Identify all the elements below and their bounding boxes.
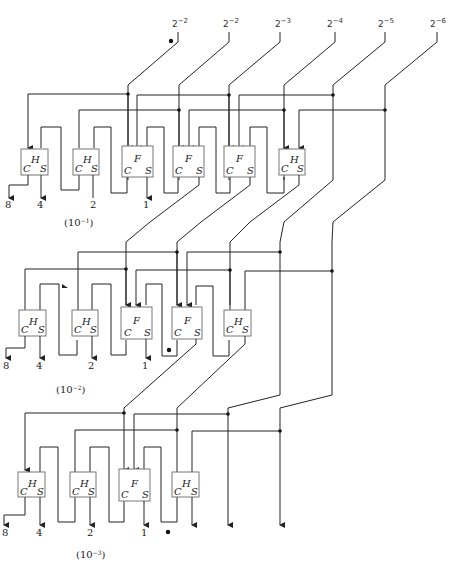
- svg-text:F: F: [133, 153, 142, 164]
- svg-text:2−3: 2−3: [275, 17, 291, 29]
- svg-text:F: F: [235, 153, 244, 164]
- svg-text:C: C: [124, 165, 132, 176]
- svg-text:1: 1: [143, 199, 149, 210]
- full-adder-block: FCS: [121, 307, 152, 339]
- half-adder-block: HCS: [19, 310, 46, 336]
- half-adder-block: HCS: [73, 149, 99, 175]
- full-adder-block: FCS: [122, 146, 153, 177]
- svg-text:S: S: [38, 324, 45, 335]
- svg-text:S: S: [90, 324, 97, 335]
- svg-text:S: S: [145, 165, 152, 176]
- svg-text:C: C: [174, 486, 182, 497]
- svg-text:4: 4: [36, 360, 42, 371]
- svg-text:8: 8: [2, 527, 8, 538]
- dot-marker: [169, 39, 173, 43]
- stage2-blocks: HCS HCS FCS FCS HCS: [19, 307, 251, 339]
- svg-text:C: C: [23, 163, 31, 174]
- stage1-outputs: [9, 175, 385, 222]
- svg-text:1: 1: [142, 360, 148, 371]
- svg-text:2−4: 2−4: [327, 17, 344, 29]
- svg-text:S: S: [247, 165, 254, 176]
- svg-text:H: H: [28, 316, 38, 327]
- svg-text:4: 4: [36, 527, 42, 538]
- full-adder-block: FCS: [172, 307, 202, 339]
- stage3-output-labels: 8 4 2 1 (10−3): [2, 527, 147, 560]
- half-adder-block: HCS: [21, 149, 48, 175]
- full-adder-block: FCS: [224, 146, 255, 177]
- svg-text:S: S: [194, 327, 201, 338]
- svg-text:S: S: [40, 163, 47, 174]
- half-adder-block: HCS: [70, 472, 96, 497]
- svg-text:2−2: 2−2: [172, 17, 188, 29]
- svg-text:2−2: 2−2: [223, 17, 239, 29]
- svg-text:S: S: [191, 486, 198, 497]
- svg-text:C: C: [174, 327, 182, 338]
- svg-text:C: C: [75, 163, 83, 174]
- svg-text:H: H: [30, 154, 40, 165]
- svg-text:F: F: [132, 315, 141, 326]
- svg-text:C: C: [124, 327, 132, 338]
- svg-text:F: F: [184, 153, 193, 164]
- half-adder-block: HCS: [18, 472, 45, 497]
- scale-label: (10−2): [56, 384, 86, 395]
- svg-text:S: S: [37, 486, 44, 497]
- svg-text:C: C: [21, 324, 29, 335]
- svg-text:F: F: [130, 478, 139, 489]
- half-adder-block: HCS: [172, 472, 199, 497]
- stage1-buses: [28, 94, 385, 148]
- svg-text:2−5: 2−5: [378, 17, 394, 29]
- svg-text:2: 2: [87, 527, 93, 538]
- svg-text:C: C: [281, 163, 289, 174]
- svg-text:S: S: [297, 163, 304, 174]
- svg-text:C: C: [72, 486, 80, 497]
- svg-text:S: S: [142, 489, 149, 500]
- junction-dots-stage2: [124, 250, 334, 273]
- scale-label: (10−1): [64, 217, 94, 228]
- half-adder-block: HCS: [72, 310, 98, 336]
- input-labels: 2−2 2−2 2−3 2−4 2−5 2−6: [172, 17, 447, 29]
- svg-text:S: S: [91, 163, 98, 174]
- svg-text:C: C: [226, 324, 234, 335]
- svg-text:2: 2: [88, 360, 94, 371]
- scale-label: (10−3): [76, 549, 106, 560]
- half-adder-block: HCS: [224, 310, 251, 336]
- stage1-output-labels: 8 4 2 1 (10−1): [5, 199, 149, 228]
- svg-text:2−6: 2−6: [430, 17, 447, 29]
- svg-text:8: 8: [5, 199, 11, 210]
- svg-text:C: C: [121, 489, 129, 500]
- half-adder-block: HCS: [279, 149, 305, 175]
- stage3-outputs: [4, 497, 192, 525]
- svg-text:S: S: [242, 324, 249, 335]
- svg-text:C: C: [74, 324, 82, 335]
- dot-marker: [167, 348, 171, 352]
- svg-text:1: 1: [141, 527, 147, 538]
- svg-text:4: 4: [37, 199, 43, 210]
- full-adder-block: FCS: [119, 469, 150, 501]
- stage2-output-labels: 8 4 2 1 (10−2): [3, 360, 148, 395]
- svg-text:8: 8: [3, 360, 9, 371]
- adder-circuit-diagram: 2−2 2−2 2−3 2−4 2−5 2−6: [0, 0, 460, 567]
- svg-text:S: S: [144, 327, 151, 338]
- svg-text:C: C: [175, 165, 183, 176]
- svg-text:H: H: [181, 478, 191, 489]
- svg-text:H: H: [27, 478, 37, 489]
- svg-text:2: 2: [90, 199, 96, 210]
- svg-text:F: F: [183, 315, 192, 326]
- svg-text:C: C: [20, 486, 28, 497]
- svg-text:C: C: [226, 165, 234, 176]
- small-arrow-mark: [62, 284, 68, 288]
- svg-text:S: S: [196, 165, 203, 176]
- full-adder-block: FCS: [173, 146, 204, 177]
- stage2-outputs: [6, 336, 332, 408]
- svg-text:S: S: [88, 486, 95, 497]
- stage3-wires: [25, 408, 280, 525]
- stage1-blocks: HCS HCS FCS FCS FCS HCS: [21, 146, 305, 177]
- dot-marker: [166, 530, 170, 534]
